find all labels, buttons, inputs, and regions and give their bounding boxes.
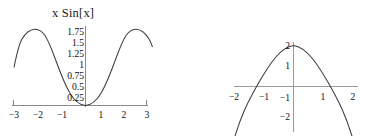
left-ytick-1: 1	[46, 60, 84, 70]
right-xtick-2: 2	[344, 92, 362, 102]
left-xtick-minus1: −1	[51, 110, 73, 120]
right-xtick-1: 1	[314, 92, 332, 102]
left-ytick-1-5: 1.5	[46, 38, 84, 48]
right-ytick-minus2: −2	[264, 112, 290, 122]
right-ytick-2: 2	[270, 41, 290, 51]
left-ytick-1-75: 1.75	[46, 27, 84, 37]
right-xtick-minus1: −1	[252, 92, 276, 102]
plot-panel-second-derivative: d2 (x Sin[x]) dx2 2 1 −1 −2 −2 −1 1 2	[187, 0, 374, 136]
left-xtick-3: 3	[138, 110, 156, 120]
left-ytick-0-5: 0.5	[46, 82, 84, 92]
left-ytick-1-25: 1.25	[46, 49, 84, 59]
left-xtick-2: 2	[115, 110, 133, 120]
two-plot-figure: x Sin[x] 1.75 1.5 1.25 1 0.75 0.5 0.25 −…	[0, 0, 374, 136]
right-ytick-1: 1	[270, 61, 290, 71]
left-xtick-minus3: −3	[3, 110, 25, 120]
left-ytick-0-75: 0.75	[46, 71, 84, 81]
left-xtick-1: 1	[92, 110, 110, 120]
right-xtick-minus2: −2	[222, 92, 246, 102]
left-xtick-minus2: −2	[27, 110, 49, 120]
plot-panel-x-sin-x: x Sin[x] 1.75 1.5 1.25 1 0.75 0.5 0.25 −…	[0, 0, 187, 136]
left-ytick-0-25: 0.25	[46, 93, 84, 103]
